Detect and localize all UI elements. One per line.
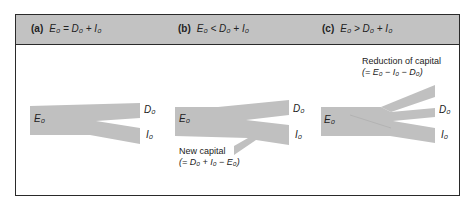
panel-c-label-bottom: I₀ xyxy=(441,129,448,140)
panel-c-label-source: E₀ xyxy=(324,114,335,125)
panel-c-note-formula: (= E₀ − I₀ − D₀) xyxy=(362,67,441,78)
panel-c-flow-main xyxy=(321,107,435,143)
panel-b-note-formula: (= D₀ + I₀ − E₀) xyxy=(179,157,240,168)
panel-c-label-top: D₀ xyxy=(439,104,450,115)
panel-a-flow xyxy=(30,103,140,144)
panel-b-label-top: D₀ xyxy=(293,103,304,114)
panel-b-note-title: New capital xyxy=(179,146,240,157)
panel-a-label-source: E₀ xyxy=(34,113,45,124)
panel-a-label-bottom: I₀ xyxy=(146,129,153,140)
panel-b-label-bottom: I₀ xyxy=(295,129,302,140)
flow-diagrams xyxy=(0,0,476,212)
panel-c-note: Reduction of capital (= E₀ − I₀ − D₀) xyxy=(362,56,441,78)
panel-b-note: New capital (= D₀ + I₀ − E₀) xyxy=(179,146,240,168)
panel-b-label-source: E₀ xyxy=(179,113,190,124)
panel-c-note-title: Reduction of capital xyxy=(362,56,441,67)
panel-c-flow-reduction xyxy=(381,85,435,112)
panel-a-label-top: D₀ xyxy=(144,104,155,115)
